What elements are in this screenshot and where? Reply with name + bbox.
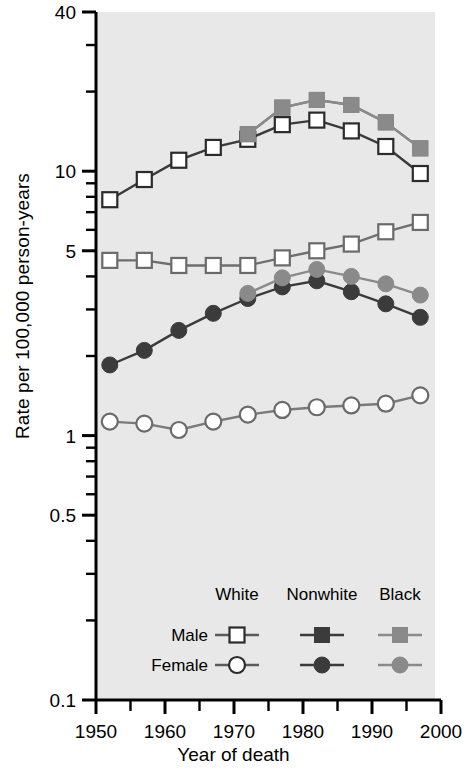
y-tick-label: 0.5 [50, 505, 76, 526]
data-point-marker [344, 97, 359, 112]
data-point-marker [102, 414, 118, 430]
data-point-marker [344, 237, 359, 252]
data-point-marker [343, 284, 359, 300]
line-chart-canvas: 4010510.50.1195019601970198019902000 Whi… [0, 0, 467, 771]
data-point-marker [137, 253, 152, 268]
data-point-marker [275, 117, 290, 132]
data-point-marker [378, 224, 393, 239]
data-point-marker [171, 322, 187, 338]
data-point-marker [378, 296, 394, 312]
data-point-marker [240, 258, 255, 273]
chart-root: Rate per 100,000 person-years Year of de… [0, 0, 467, 771]
y-tick-label: 5 [65, 241, 76, 262]
data-point-marker [393, 628, 408, 643]
data-point-marker [309, 113, 324, 128]
data-point-marker [206, 258, 221, 273]
data-point-marker [412, 287, 428, 303]
data-point-marker [102, 192, 117, 207]
data-point-marker [205, 414, 221, 430]
data-point-marker [309, 243, 324, 258]
y-tick-label: 40 [55, 2, 76, 23]
data-point-marker [309, 261, 325, 277]
data-point-marker [343, 268, 359, 284]
x-tick-label: 1990 [351, 721, 393, 742]
x-tick-label: 1960 [144, 721, 186, 742]
data-point-marker [275, 100, 290, 115]
data-point-marker [378, 139, 393, 154]
data-point-marker [344, 123, 359, 138]
data-point-marker [412, 387, 428, 403]
y-tick-label: 10 [55, 161, 76, 182]
x-tick-label: 1970 [213, 721, 255, 742]
data-point-marker [171, 153, 186, 168]
data-point-marker [240, 127, 255, 142]
legend-row-label-female: Female [151, 656, 208, 675]
data-point-marker [309, 92, 324, 107]
data-point-marker [412, 309, 428, 325]
y-tick-label: 1 [65, 426, 76, 447]
data-point-marker [413, 215, 428, 230]
data-point-marker [315, 628, 330, 643]
x-tick-label: 1950 [75, 721, 117, 742]
data-point-marker [137, 172, 152, 187]
data-point-marker [230, 628, 245, 643]
data-point-marker [309, 399, 325, 415]
legend-header-nonwhite: Nonwhite [287, 585, 358, 604]
data-point-marker [136, 342, 152, 358]
data-point-marker [314, 657, 330, 673]
y-tick-label: 0.1 [50, 690, 76, 711]
data-point-marker [171, 258, 186, 273]
data-point-marker [102, 253, 117, 268]
data-point-marker [275, 250, 290, 265]
x-tick-label: 1980 [282, 721, 324, 742]
data-point-marker [274, 270, 290, 286]
legend-header-white: White [215, 585, 258, 604]
data-point-marker [413, 141, 428, 156]
data-point-marker [413, 166, 428, 181]
data-point-marker [378, 115, 393, 130]
data-point-marker [171, 422, 187, 438]
x-tick-label: 2000 [420, 721, 462, 742]
data-point-marker [240, 285, 256, 301]
data-point-marker [136, 416, 152, 432]
data-point-marker [240, 407, 256, 423]
data-point-marker [205, 305, 221, 321]
data-point-marker [206, 140, 221, 155]
data-point-marker [229, 657, 245, 673]
data-point-marker [343, 397, 359, 413]
data-point-marker [378, 396, 394, 412]
data-point-marker [378, 276, 394, 292]
legend-row-label-male: Male [171, 626, 208, 645]
legend-header-black: Black [379, 585, 421, 604]
data-point-marker [274, 402, 290, 418]
data-point-marker [392, 657, 408, 673]
data-point-marker [102, 357, 118, 373]
